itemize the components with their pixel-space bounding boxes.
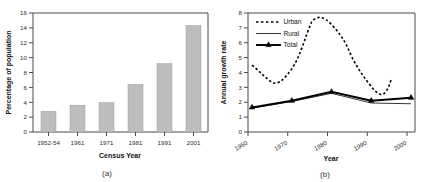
legend-label-urban: Urban [284, 18, 302, 25]
bar-1952-54 [41, 111, 56, 132]
legend-label-rural: Rural [284, 30, 300, 37]
y-tick-label: 0 [239, 128, 243, 135]
x-tick-label: 1980 [313, 139, 329, 152]
y-axis-label: Percentage of population [5, 30, 13, 114]
bar-1971 [99, 103, 114, 132]
y-axis-ticks [244, 13, 248, 132]
legend-item-urban: Urban [256, 18, 302, 25]
legend-label-total: Total [284, 41, 298, 48]
x-axis-ticks [248, 132, 407, 136]
bar-1991 [157, 64, 172, 132]
y-tick-label: 2 [24, 113, 28, 120]
x-tick-label: 1991 [158, 139, 172, 146]
bar-chart-svg: 0 2 4 6 8 10 12 14 16 [0, 0, 215, 182]
y-tick-label: 5 [239, 54, 243, 61]
x-tick-label: 1981 [129, 139, 143, 146]
bar-series [41, 26, 201, 132]
panel-caption-a: (a) [102, 169, 112, 178]
y-tick-label: 0 [24, 128, 28, 135]
series-rural-line [252, 93, 411, 108]
y-tick-label: 6 [24, 84, 28, 91]
two-panel-figure: 0 2 4 6 8 10 12 14 16 [0, 0, 429, 182]
x-tick-label: 1971 [100, 139, 114, 146]
y-tick-label: 8 [24, 69, 28, 76]
series-urban-line [252, 17, 391, 94]
y-tick-label: 3 [239, 84, 243, 91]
panel-b-line-chart: 0 1 2 3 4 5 6 7 8 [215, 0, 429, 182]
y-axis-tick-labels: 0 1 2 3 4 5 6 7 8 [239, 9, 243, 135]
x-tick-label: 1952-54 [37, 139, 60, 146]
y-axis-tick-labels: 0 2 4 6 8 10 12 14 16 [20, 9, 27, 135]
panel-caption-b: (b) [320, 170, 330, 179]
y-tick-label: 8 [239, 9, 243, 16]
x-tick-label: 2001 [187, 139, 201, 146]
panel-a-bar-chart: 0 2 4 6 8 10 12 14 16 [0, 0, 215, 182]
x-axis-ticks [49, 132, 194, 136]
x-axis-label: Year [324, 155, 339, 162]
x-axis-label: Census Year [99, 152, 141, 159]
bar-2001 [186, 26, 201, 132]
y-tick-label: 6 [239, 39, 243, 46]
y-tick-label: 4 [24, 99, 28, 106]
x-tick-label: 2000 [392, 139, 408, 152]
legend-item-total: Total [256, 41, 298, 48]
x-axis-tick-labels: 1952-54 1961 1971 1981 1991 2001 [37, 139, 201, 146]
series-total-line [252, 92, 411, 108]
y-tick-label: 16 [20, 9, 27, 16]
line-chart-svg: 0 1 2 3 4 5 6 7 8 [215, 0, 429, 182]
y-tick-label: 2 [239, 98, 243, 105]
y-axis-ticks [29, 13, 33, 132]
x-tick-label: 1970 [273, 139, 289, 152]
y-tick-label: 4 [239, 69, 243, 76]
y-tick-label: 7 [239, 24, 243, 31]
y-axis-label: Annual growth rate [220, 41, 228, 105]
bar-1981 [128, 84, 143, 132]
y-tick-label: 12 [20, 39, 27, 46]
x-axis-tick-labels: 1960 1970 1980 1990 2000 [233, 139, 408, 152]
bar-1961 [70, 105, 85, 132]
legend: Urban Rural Total [256, 18, 302, 48]
y-tick-label: 1 [239, 113, 243, 120]
x-tick-label: 1960 [233, 139, 249, 152]
y-tick-label: 10 [20, 54, 27, 61]
x-tick-label: 1990 [352, 139, 368, 152]
x-tick-label: 1961 [71, 139, 85, 146]
legend-item-rural: Rural [256, 30, 300, 37]
y-tick-label: 14 [20, 24, 27, 31]
